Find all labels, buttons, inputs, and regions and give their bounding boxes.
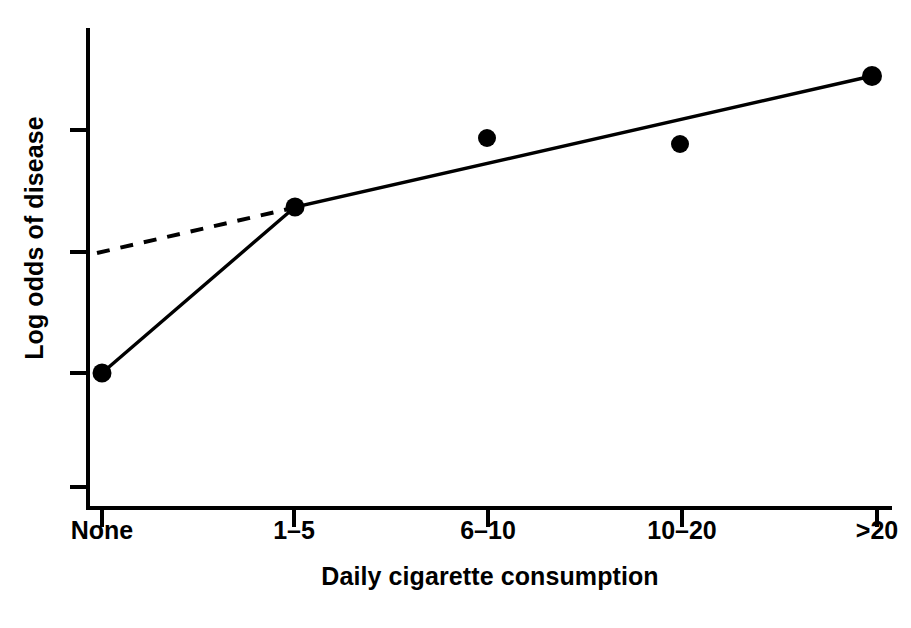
y-axis-title: Log odds of disease [12,0,56,478]
data-point-1-5 [286,198,305,217]
data-point-none [93,364,112,383]
x-tick-label-6-10: 6–10 [460,516,516,545]
data-point-markers [93,66,883,383]
x-tick-label-1-5: 1–5 [273,516,315,545]
dashed-trend-line [97,208,293,253]
y-axis-ticks [70,130,88,487]
data-point-gt20 [862,66,882,86]
data-point-10-20 [671,135,689,153]
x-tick-label-10-20: 10–20 [647,516,717,545]
x-axis-title: Daily cigarette consumption [88,562,892,591]
clipped-caption-sliver [14,616,314,628]
log-odds-line-chart [0,0,911,628]
data-point-6-10 [478,129,496,147]
x-tick-label-none: None [71,516,134,545]
chart-figure: Log odds of disease Daily cigarette cons… [0,0,911,628]
x-tick-label-gt20: >20 [856,516,898,545]
